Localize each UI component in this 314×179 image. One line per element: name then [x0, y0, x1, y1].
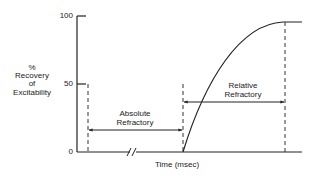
absolute-refractory-label: Absolute Refractory — [105, 109, 165, 127]
y-axis-title-line: Excitability — [2, 89, 62, 97]
annotation-line: Relative — [213, 81, 273, 90]
y-tick-label-100: 100 — [53, 12, 73, 21]
annotation-line: Refractory — [105, 118, 165, 127]
relative-refractory-label: Relative Refractory — [213, 81, 273, 99]
annotation-line: Absolute — [105, 109, 165, 118]
y-axis-title: % Recovery of Excitability — [2, 64, 62, 97]
annotation-line: Refractory — [213, 90, 273, 99]
x-axis-title: Time (msec) — [155, 161, 235, 170]
y-tick-label-0: 0 — [53, 148, 73, 157]
